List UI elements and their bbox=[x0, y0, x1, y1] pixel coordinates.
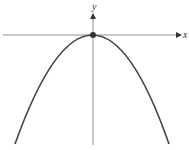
parabola-diagram: y x bbox=[0, 0, 189, 150]
parabola-curve bbox=[15, 35, 169, 144]
y-axis-label: y bbox=[91, 1, 97, 12]
x-axis-label: x bbox=[182, 29, 188, 40]
vertex-point bbox=[90, 32, 96, 38]
